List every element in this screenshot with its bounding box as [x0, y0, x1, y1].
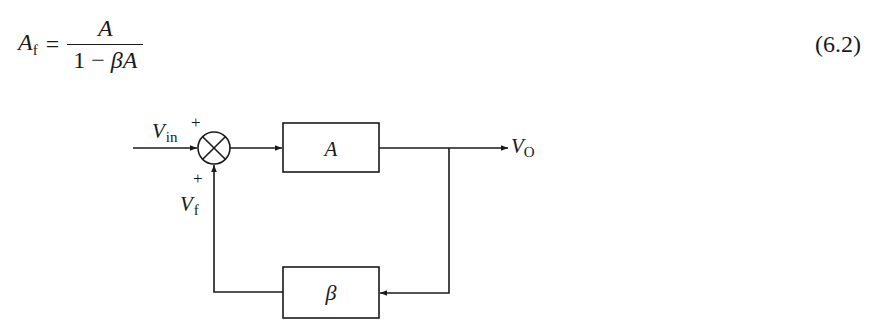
input-sign: + [191, 113, 201, 132]
summing-junction-icon [198, 132, 230, 164]
amplifier-label: A [323, 137, 338, 161]
output-label: VO [511, 134, 535, 160]
input-label: Vin [152, 119, 178, 145]
feedback-tap-line [380, 148, 449, 293]
feedback-return-line [214, 165, 283, 292]
feedback-network-label: β [325, 280, 337, 305]
feedback-block-diagram: Vin + + Vf A β VO [0, 0, 883, 322]
feedback-sign: + [193, 169, 203, 188]
feedback-label: Vf [180, 192, 199, 218]
